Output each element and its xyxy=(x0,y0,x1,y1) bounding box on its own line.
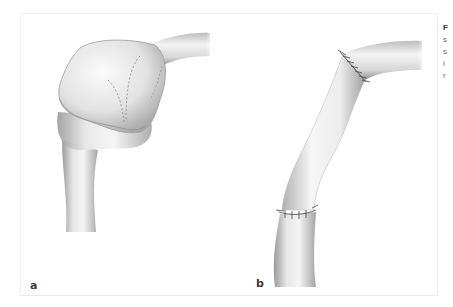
caption-line: r xyxy=(443,70,453,82)
caption-line: F xyxy=(443,22,453,34)
figure-caption-truncated: F s s i r xyxy=(443,22,453,82)
caption-line: s xyxy=(443,34,453,46)
panel-a-illustration xyxy=(57,30,215,232)
panel-label-a: a xyxy=(30,279,37,292)
caption-line: s xyxy=(443,46,453,58)
panel-b-illustration xyxy=(274,38,425,287)
caption-line: i xyxy=(443,58,453,70)
panel-label-b: b xyxy=(256,277,264,290)
